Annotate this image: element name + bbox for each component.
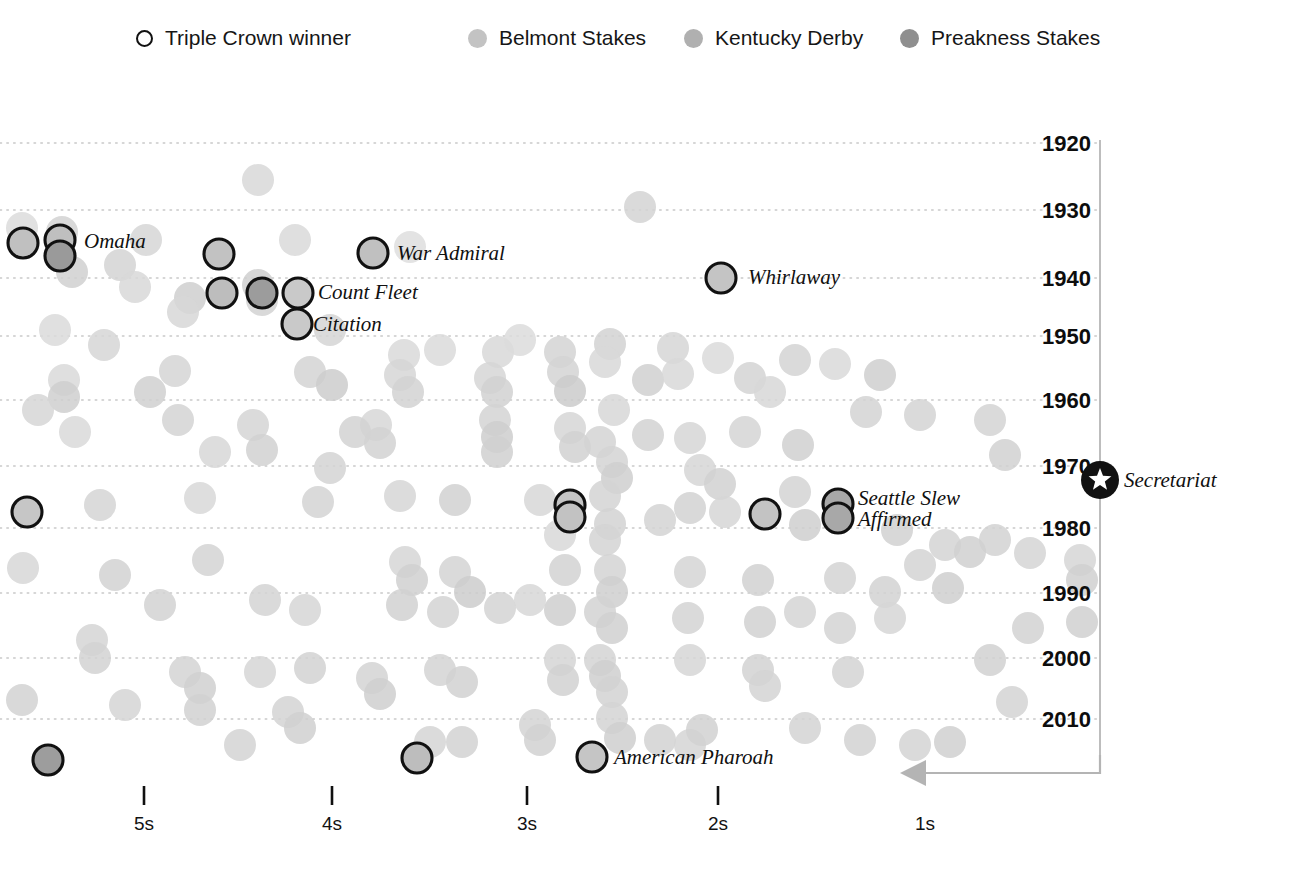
data-point <box>162 404 194 436</box>
data-point <box>789 509 821 541</box>
winner-label-war-admiral: War Admiral <box>397 241 505 265</box>
data-point <box>84 489 116 521</box>
winner-marker-war-admiral-a <box>204 239 234 269</box>
direction-arrow <box>900 755 1100 786</box>
winner-marker-affirmed <box>823 503 853 533</box>
winner-marker-whirlaway <box>706 263 736 293</box>
data-point <box>392 376 424 408</box>
data-point <box>524 484 556 516</box>
data-point <box>824 562 856 594</box>
data-point <box>784 596 816 628</box>
data-point <box>199 436 231 468</box>
data-point <box>589 524 621 556</box>
data-point <box>294 652 326 684</box>
data-point <box>596 612 628 644</box>
data-points <box>6 164 1098 761</box>
data-point <box>632 364 664 396</box>
data-point <box>544 594 576 626</box>
secretariat-marker: Secretariat <box>1081 461 1218 499</box>
data-point <box>314 452 346 484</box>
data-point <box>674 492 706 524</box>
data-point <box>446 726 478 758</box>
data-point <box>7 552 39 584</box>
data-point <box>989 439 1021 471</box>
data-point <box>864 359 896 391</box>
data-point <box>899 729 931 761</box>
y-tick-label-1920: 1920 <box>1042 131 1091 156</box>
winner-marker-citation <box>282 309 312 339</box>
data-point <box>88 329 120 361</box>
data-point <box>874 602 906 634</box>
y-tick-label-1940: 1940 <box>1042 266 1091 291</box>
data-point <box>850 396 882 428</box>
winner-marker-omaha <box>45 241 75 271</box>
data-point <box>316 369 348 401</box>
y-tick-label-1930: 1930 <box>1042 198 1091 223</box>
winner-marker-american-pharoah <box>577 742 607 772</box>
winner-label-whirlaway: Whirlaway <box>748 265 841 289</box>
data-point <box>184 482 216 514</box>
scatter-plot: OmahaWar AdmiralWhirlawayCount FleetCita… <box>0 0 1301 874</box>
data-point <box>729 416 761 448</box>
data-point <box>99 559 131 591</box>
data-point <box>109 689 141 721</box>
data-point <box>996 686 1028 718</box>
data-point <box>159 355 191 387</box>
data-point <box>424 334 456 366</box>
data-point <box>547 664 579 696</box>
data-point <box>364 678 396 710</box>
data-point <box>549 554 581 586</box>
data-point <box>819 348 851 380</box>
data-point <box>954 536 986 568</box>
data-point <box>598 394 630 426</box>
data-point <box>446 666 478 698</box>
data-point <box>744 606 776 638</box>
winner-marker-unnamed-1977c <box>555 502 585 532</box>
winner-label-affirmed: Affirmed <box>856 507 932 531</box>
data-point <box>79 642 111 674</box>
x-tick-label-4s: 4s <box>322 813 342 834</box>
data-point <box>754 376 786 408</box>
data-point <box>704 468 736 500</box>
data-point <box>674 556 706 588</box>
data-point <box>974 644 1006 676</box>
triple-crown-markers: OmahaWar AdmiralWhirlawayCount FleetCita… <box>8 225 960 775</box>
data-point <box>624 191 656 223</box>
winner-marker-sir-barton <box>8 228 38 258</box>
data-point <box>279 224 311 256</box>
data-point <box>674 422 706 454</box>
data-point <box>439 484 471 516</box>
winner-marker-unnamed-1978 <box>750 499 780 529</box>
winner-label-american-pharoah: American Pharoah <box>612 745 774 769</box>
x-axis: 5s4s3s2s1s <box>134 786 935 834</box>
data-point <box>284 712 316 744</box>
data-point <box>554 375 586 407</box>
data-point <box>904 549 936 581</box>
data-point <box>454 576 486 608</box>
arrow-head-icon <box>900 760 926 786</box>
data-point <box>427 596 459 628</box>
data-point <box>662 358 694 390</box>
data-point <box>481 376 513 408</box>
data-point <box>386 589 418 621</box>
x-tick-label-1s: 1s <box>915 813 935 834</box>
data-point <box>749 670 781 702</box>
winner-marker-count-fleet <box>283 278 313 308</box>
data-point <box>504 324 536 356</box>
data-point <box>932 572 964 604</box>
data-point <box>246 434 278 466</box>
data-point <box>686 714 718 746</box>
data-point <box>904 399 936 431</box>
data-point <box>974 404 1006 436</box>
data-point <box>481 436 513 468</box>
y-tick-label-2010: 2010 <box>1042 707 1091 732</box>
winner-label-count-fleet: Count Fleet <box>318 280 419 304</box>
data-point <box>59 416 91 448</box>
data-point <box>709 496 741 528</box>
data-point <box>192 544 224 576</box>
data-point <box>824 612 856 644</box>
winner-marker-war-admiral <box>358 238 388 268</box>
data-point <box>779 344 811 376</box>
data-point <box>644 504 676 536</box>
y-tick-label-1960: 1960 <box>1042 388 1091 413</box>
